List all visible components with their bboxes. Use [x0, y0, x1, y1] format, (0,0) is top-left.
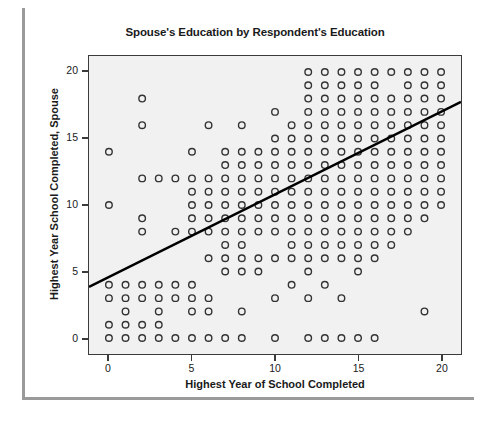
data-point: [371, 162, 378, 169]
data-point: [272, 215, 279, 222]
data-point: [288, 282, 295, 289]
data-point: [355, 69, 362, 76]
data-point: [305, 202, 312, 209]
data-point: [222, 268, 229, 275]
data-point: [288, 162, 295, 169]
data-point: [172, 335, 179, 342]
data-point: [288, 242, 295, 249]
data-point: [338, 335, 345, 342]
data-point: [155, 308, 162, 315]
data-point: [438, 69, 445, 76]
data-point: [322, 188, 329, 195]
data-point: [106, 295, 113, 302]
data-point: [139, 282, 146, 289]
data-point: [239, 188, 246, 195]
data-point: [239, 162, 246, 169]
data-point: [155, 295, 162, 302]
data-point: [421, 149, 428, 156]
data-point: [288, 135, 295, 142]
data-point: [371, 69, 378, 76]
data-point: [388, 69, 395, 76]
data-point: [438, 188, 445, 195]
data-point: [239, 122, 246, 129]
data-point: [371, 95, 378, 102]
chart-title: Spouse's Education by Respondent's Educa…: [40, 26, 470, 38]
data-point: [322, 122, 329, 129]
data-point: [272, 162, 279, 169]
data-point: [421, 162, 428, 169]
data-point: [288, 149, 295, 156]
data-point: [222, 202, 229, 209]
data-point: [421, 95, 428, 102]
data-point: [355, 135, 362, 142]
data-point: [288, 175, 295, 182]
data-point: [205, 215, 212, 222]
data-point: [338, 242, 345, 249]
data-point: [338, 82, 345, 89]
data-point: [322, 228, 329, 235]
data-point: [122, 308, 129, 315]
data-point: [421, 69, 428, 76]
scatter-canvas: [89, 56, 461, 354]
data-point: [222, 242, 229, 249]
data-point: [421, 188, 428, 195]
data-point: [239, 228, 246, 235]
data-point: [338, 188, 345, 195]
data-point: [106, 335, 113, 342]
data-point: [155, 335, 162, 342]
data-point: [189, 335, 196, 342]
data-point: [322, 242, 329, 249]
data-point: [139, 175, 146, 182]
data-point: [106, 321, 113, 328]
x-axis-title: Highest Year of School Completed: [88, 378, 462, 390]
data-point: [371, 135, 378, 142]
data-point: [305, 95, 312, 102]
x-tick-mark: [441, 355, 443, 361]
data-point: [322, 149, 329, 156]
data-point: [239, 175, 246, 182]
data-point: [139, 335, 146, 342]
data-point: [139, 295, 146, 302]
data-point: [255, 228, 262, 235]
data-point: [388, 215, 395, 222]
data-point: [355, 228, 362, 235]
data-point: [421, 122, 428, 129]
x-tick-label: 10: [257, 362, 293, 374]
x-tick-mark: [191, 355, 193, 361]
data-point: [205, 188, 212, 195]
data-point: [139, 321, 146, 328]
data-point: [388, 162, 395, 169]
data-point: [272, 175, 279, 182]
data-point: [189, 175, 196, 182]
data-point: [438, 135, 445, 142]
x-tick-mark: [107, 355, 109, 361]
data-point: [255, 188, 262, 195]
data-point: [222, 335, 229, 342]
data-point: [355, 188, 362, 195]
data-point: [405, 162, 412, 169]
data-point: [305, 268, 312, 275]
data-point: [355, 82, 362, 89]
data-point: [371, 242, 378, 249]
data-point: [338, 122, 345, 129]
data-point: [255, 215, 262, 222]
data-point: [371, 202, 378, 209]
data-point: [255, 175, 262, 182]
data-point: [239, 149, 246, 156]
data-point: [421, 308, 428, 315]
data-point: [239, 308, 246, 315]
data-point: [338, 149, 345, 156]
data-point: [322, 82, 329, 89]
y-tick-label: 20: [44, 64, 78, 76]
data-point: [222, 255, 229, 262]
data-point: [438, 82, 445, 89]
data-point: [288, 228, 295, 235]
data-point: [172, 295, 179, 302]
data-point: [322, 282, 329, 289]
data-point: [255, 149, 262, 156]
data-point: [371, 82, 378, 89]
data-point: [305, 162, 312, 169]
data-point: [438, 122, 445, 129]
data-point: [421, 82, 428, 89]
data-point: [405, 69, 412, 76]
